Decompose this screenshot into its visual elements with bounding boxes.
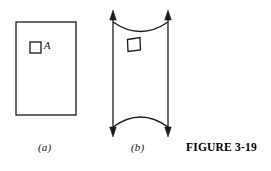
figure-caption: FIGURE 3-19 xyxy=(186,142,257,154)
panel-b-top-curve xyxy=(113,22,168,32)
arrow-head-bottom-right-icon xyxy=(165,127,172,137)
panel-a-element-label: A xyxy=(44,41,50,52)
figure-3-19: A (a) (b) FIGURE 3-19 xyxy=(0,0,271,171)
panel-b-bottom-curve xyxy=(113,117,168,127)
panel-b-caption: (b) xyxy=(131,142,144,153)
panel-a-group xyxy=(16,22,76,115)
panel-b-element-square xyxy=(128,38,141,52)
panel-b-group xyxy=(110,10,172,137)
arrow-head-bottom-left-icon xyxy=(110,127,117,137)
panel-a-caption: (a) xyxy=(38,142,51,153)
arrow-head-top-left-icon xyxy=(110,10,117,20)
arrow-head-top-right-icon xyxy=(165,10,172,20)
panel-a-body-outline xyxy=(16,22,76,115)
panel-a-element-square xyxy=(30,42,41,53)
